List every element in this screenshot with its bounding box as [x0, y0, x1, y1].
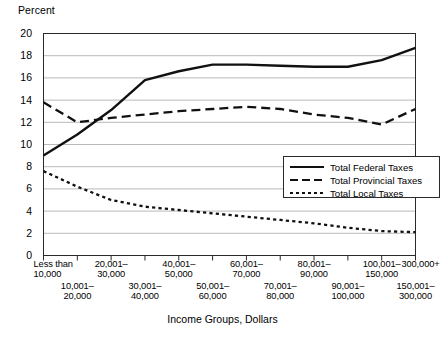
y-tick-label-16: 16 — [8, 72, 32, 82]
legend-label-provincial: Total Provincial Taxes — [330, 175, 422, 186]
legend-swatch-dashed — [289, 175, 325, 185]
y-tick-label-18: 18 — [8, 50, 32, 60]
series-line-0 — [44, 48, 416, 156]
legend-label-local: Total Local Taxes — [330, 188, 403, 199]
gridlines — [44, 34, 416, 256]
x-tick-label-5: 50,001– 60,000 — [182, 281, 244, 301]
y-tick-label-10: 10 — [8, 139, 32, 149]
x-tick-label-8: 80,001– 90,000 — [283, 259, 345, 279]
tax-percent-line-chart: Percent 02468101214161820 Less than 10,0… — [0, 0, 445, 337]
y-tick-label-4: 4 — [8, 206, 32, 216]
legend: Total Federal Taxes Total Provincial Tax… — [283, 156, 440, 198]
x-tick-label-11: 150,001– 300,000 — [385, 281, 445, 301]
x-axis-title: Income Groups, Dollars — [0, 313, 445, 325]
legend-item-federal: Total Federal Taxes — [289, 161, 434, 173]
x-tick-label-2: 20,001– 30,000 — [80, 259, 142, 279]
y-tick-label-12: 12 — [8, 117, 32, 127]
legend-swatch-dotted — [289, 188, 325, 198]
series-lines — [44, 48, 416, 232]
y-tick-label-14: 14 — [8, 95, 32, 105]
x-tick-label-1: 10,001– 20,000 — [46, 281, 108, 301]
legend-swatch-solid — [289, 162, 325, 172]
x-tick-label-3: 30,001– 40,000 — [114, 281, 176, 301]
y-tick-label-20: 20 — [8, 28, 32, 38]
x-tick-label-12: 300,000+ — [390, 259, 445, 269]
x-tick-label-4: 40,001– 50,000 — [148, 259, 210, 279]
x-tick-label-6: 60,001– 70,000 — [215, 259, 277, 279]
y-tick-label-2: 2 — [8, 228, 32, 238]
legend-label-federal: Total Federal Taxes — [330, 162, 413, 173]
x-tick-label-7: 70,001– 80,000 — [249, 281, 311, 301]
x-tick-label-9: 90,001– 100,000 — [317, 281, 379, 301]
y-tick-label-8: 8 — [8, 161, 32, 171]
series-line-1 — [44, 102, 416, 124]
legend-item-provincial: Total Provincial Taxes — [289, 174, 434, 186]
legend-item-local: Total Local Taxes — [289, 187, 434, 199]
y-tick-label-6: 6 — [8, 183, 32, 193]
y-tick-label-0: 0 — [8, 250, 32, 260]
